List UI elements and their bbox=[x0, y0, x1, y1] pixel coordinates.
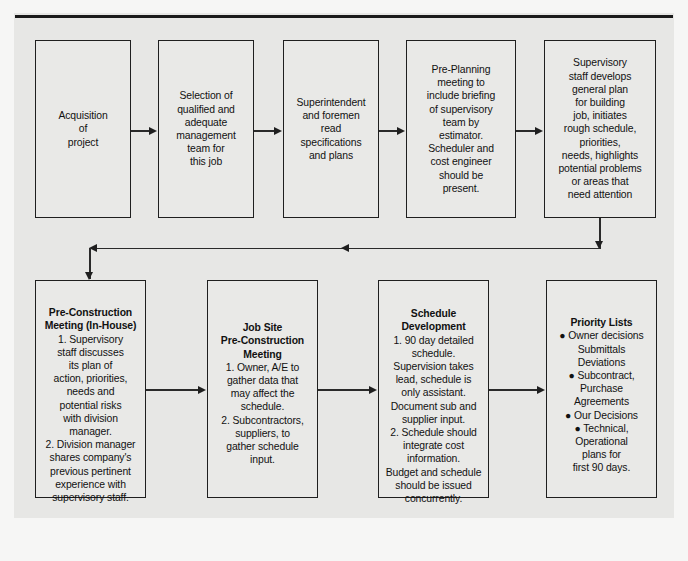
process-box-heading: Pre-Construction Meeting (In-House) bbox=[39, 306, 142, 332]
process-box-text: Superintendent and foremen read specific… bbox=[287, 96, 375, 162]
page-margin-bottom bbox=[0, 518, 688, 561]
process-box-text: ● Owner decisions Submittals Deviations … bbox=[559, 330, 643, 473]
connector-line-t3-t4 bbox=[379, 130, 398, 132]
process-box-selection-of-management-team: Selection of qualified and adequate mana… bbox=[158, 40, 254, 218]
arrow-head-t3-t4-icon bbox=[397, 127, 405, 135]
top-horizontal-rule bbox=[15, 15, 673, 18]
process-box-text: Supervisory staff develops general plan … bbox=[548, 56, 652, 201]
process-box-text: 1. Supervisory staff discusses its plan … bbox=[46, 334, 136, 503]
process-box-text: Pre-Planning meeting to include briefing… bbox=[410, 63, 512, 195]
process-box-heading: Priority Lists bbox=[550, 316, 653, 329]
arrow-head-row-wrap-mid-icon bbox=[341, 244, 349, 252]
process-box-pre-planning-meeting: Pre-Planning meeting to include briefing… bbox=[406, 40, 516, 218]
connector-line-b2-b3 bbox=[318, 389, 370, 391]
arrow-head-b1-b2-icon bbox=[198, 386, 206, 394]
process-box-heading: Schedule Development bbox=[382, 307, 485, 333]
arrow-head-t2-t3-icon bbox=[274, 127, 282, 135]
page-margin-top bbox=[0, 0, 688, 13]
process-box-superintendent-reads-specs: Superintendent and foremen read specific… bbox=[283, 40, 379, 218]
arrow-head-t1-t2-icon bbox=[149, 127, 157, 135]
connector-line-b1-b2 bbox=[146, 389, 199, 391]
flowchart-canvas: Acquisition of project Selection of qual… bbox=[0, 0, 688, 561]
page-margin-right bbox=[674, 0, 688, 561]
connector-line-b3-b4 bbox=[489, 389, 538, 391]
process-box-priority-lists: Priority Lists● Owner decisions Submitta… bbox=[546, 280, 657, 498]
page-margin-left bbox=[0, 0, 14, 561]
process-box-text: Acquisition of project bbox=[39, 109, 127, 149]
process-box-acquisition-of-project: Acquisition of project bbox=[35, 40, 131, 218]
process-box-schedule-development: Schedule Development1. 90 day detailed s… bbox=[378, 280, 489, 498]
process-box-job-site-pre-construction-meeting: Job Site Pre-Construction Meeting1. Owne… bbox=[207, 280, 318, 498]
arrow-head-t4-t5-icon bbox=[535, 127, 543, 135]
connector-line-t4-t5 bbox=[516, 130, 536, 132]
process-box-text: Selection of qualified and adequate mana… bbox=[162, 89, 250, 168]
process-box-supervisory-staff-general-plan: Supervisory staff develops general plan … bbox=[544, 40, 656, 218]
arrow-head-b2-b3-icon bbox=[369, 386, 377, 394]
arrow-head-b3-b4-icon bbox=[537, 386, 545, 394]
connector-line-t1-t2 bbox=[131, 130, 150, 132]
connector-line-t2-t3 bbox=[254, 130, 275, 132]
arrow-head-down-to-b1-icon bbox=[85, 272, 93, 280]
process-box-heading: Job Site Pre-Construction Meeting bbox=[211, 321, 314, 361]
process-box-pre-construction-meeting-in-house: Pre-Construction Meeting (In-House)1. Su… bbox=[35, 280, 146, 498]
process-box-text: 1. Owner, A/E to gather data that may af… bbox=[221, 362, 304, 465]
process-box-text: 1. 90 day detailed schedule. Supervision… bbox=[386, 335, 482, 504]
